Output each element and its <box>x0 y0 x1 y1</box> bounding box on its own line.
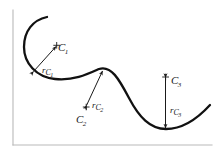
figure-canvas <box>0 0 219 154</box>
label-center-c2-sub: 2 <box>83 120 87 128</box>
label-center-c3: C3 <box>171 71 182 87</box>
label-radius-c1: rC1 <box>42 60 54 76</box>
center-cross-c3 <box>162 74 169 81</box>
label-radius-c2-subnum: 2 <box>100 107 103 113</box>
label-center-c3-sub: 3 <box>178 81 182 89</box>
label-radius-c1-subnum: 1 <box>50 72 53 78</box>
curvature-marker-c3 <box>162 74 169 128</box>
label-radius-c3: rC3 <box>170 100 182 116</box>
label-radius-c1-sub: C1 <box>46 68 54 77</box>
label-radius-c2: rC2 <box>92 95 104 111</box>
label-center-c1-sub: 1 <box>65 48 69 56</box>
curvature-figure: C1 rC1 C2 rC2 C3 rC3 <box>0 0 219 154</box>
label-radius-c2-sub: C2 <box>96 103 104 112</box>
label-radius-c3-subnum: 3 <box>178 112 181 118</box>
label-center-c2: C2 <box>76 110 87 126</box>
label-center-c1: C1 <box>58 38 69 54</box>
label-radius-c3-sub: C3 <box>174 108 182 117</box>
